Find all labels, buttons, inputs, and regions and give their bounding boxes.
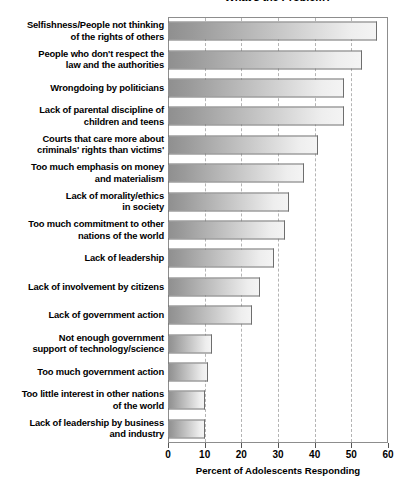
- bar-rows: Selfishness/People not thinkingof the ri…: [0, 17, 397, 443]
- bar-row: Lack of morality/ethicsin society: [0, 187, 397, 215]
- bar-category-label: Too much emphasis on moneyand materialis…: [0, 162, 164, 185]
- bar: [168, 135, 318, 154]
- x-tick: [278, 443, 279, 448]
- x-tick: [315, 443, 316, 448]
- bar: [168, 78, 344, 97]
- bar-row: Selfishness/People not thinkingof the ri…: [0, 17, 397, 45]
- x-tick-label: 40: [300, 449, 330, 460]
- bar: [168, 391, 205, 410]
- bar-chart: What's the Problem? Selfishness/People n…: [0, 0, 397, 481]
- bar-row: Too little interest in other nationsof t…: [0, 386, 397, 414]
- bar-category-label: Lack of government action: [0, 309, 164, 321]
- bar-category-label: Too little interest in other nationsof t…: [0, 389, 164, 412]
- bar: [168, 362, 208, 381]
- x-tick-label: 30: [263, 449, 293, 460]
- bar-category-label: Courts that care more aboutcriminals' ri…: [0, 133, 164, 156]
- bar-row: Too much emphasis on moneyand materialis…: [0, 159, 397, 187]
- chart-title: What's the Problem?: [168, 0, 388, 3]
- bar-category-label: Too much government action: [0, 366, 164, 378]
- bar-row: Too much government action: [0, 358, 397, 386]
- bar: [168, 50, 362, 69]
- x-tick: [205, 443, 206, 448]
- bar: [168, 164, 304, 183]
- bar-row: Not enough governmentsupport of technolo…: [0, 329, 397, 357]
- x-axis-title: Percent of Adolescents Responding: [168, 465, 388, 476]
- bar-row: Lack of parental discipline ofchildren a…: [0, 102, 397, 130]
- bar: [168, 419, 205, 438]
- bar: [168, 306, 252, 325]
- x-tick-label: 50: [336, 449, 366, 460]
- x-tick: [388, 443, 389, 448]
- bar: [168, 334, 212, 353]
- bar-row: Courts that care more aboutcriminals' ri…: [0, 131, 397, 159]
- bar-row: Wrongdoing by politicians: [0, 74, 397, 102]
- bar: [168, 220, 285, 239]
- bar-category-label: Lack of leadership: [0, 253, 164, 265]
- x-tick-label: 10: [190, 449, 220, 460]
- bar-row: Lack of involvement by citizens: [0, 273, 397, 301]
- bar-category-label: Selfishness/People not thinkingof the ri…: [0, 20, 164, 43]
- x-tick-label: 0: [153, 449, 183, 460]
- bar: [168, 277, 260, 296]
- bar: [168, 192, 289, 211]
- bar-category-label: Too much commitment to othernations of t…: [0, 218, 164, 241]
- bar-category-label: Lack of leadership by businessand indust…: [0, 417, 164, 440]
- bar-category-label: Lack of parental discipline ofchildren a…: [0, 105, 164, 128]
- x-tick: [241, 443, 242, 448]
- bar-row: Lack of government action: [0, 301, 397, 329]
- bar-category-label: People who don't respect thelaw and the …: [0, 48, 164, 71]
- bar-category-label: Wrongdoing by politicians: [0, 82, 164, 94]
- bar: [168, 107, 344, 126]
- bar-row: People who don't respect thelaw and the …: [0, 45, 397, 73]
- bar-category-label: Not enough governmentsupport of technolo…: [0, 332, 164, 355]
- bar-row: Too much commitment to othernations of t…: [0, 216, 397, 244]
- bar: [168, 249, 274, 268]
- x-tick-label: 60: [373, 449, 397, 460]
- x-tick: [168, 443, 169, 448]
- x-axis: Percent of Adolescents Responding 010203…: [0, 443, 397, 481]
- bar-category-label: Lack of involvement by citizens: [0, 281, 164, 293]
- x-tick: [351, 443, 352, 448]
- bar-row: Lack of leadership by businessand indust…: [0, 415, 397, 443]
- bar-category-label: Lack of morality/ethicsin society: [0, 190, 164, 213]
- bar: [168, 22, 377, 41]
- x-tick-label: 20: [226, 449, 256, 460]
- bar-row: Lack of leadership: [0, 244, 397, 272]
